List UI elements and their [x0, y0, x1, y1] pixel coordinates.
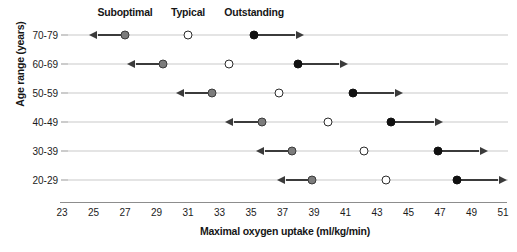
- arrowhead-icon: [89, 31, 97, 39]
- x-tick-label-31: 31: [182, 207, 193, 218]
- data-point-sub: [121, 31, 130, 40]
- x-axis-line: [60, 202, 507, 203]
- arrow-right-out: [254, 34, 295, 36]
- arrowhead-icon: [225, 118, 233, 126]
- data-point-typ: [324, 118, 333, 127]
- x-tick-label-27: 27: [119, 207, 130, 218]
- x-tick-label-39: 39: [308, 207, 319, 218]
- y-tick-mark: [61, 93, 68, 94]
- data-point-typ: [224, 60, 233, 69]
- arrowhead-icon: [127, 60, 135, 68]
- data-point-typ: [382, 176, 391, 185]
- y-tick-label-20-29: 20-29: [12, 175, 58, 186]
- x-tick-label-23: 23: [56, 207, 67, 218]
- data-point-out: [387, 118, 396, 127]
- data-point-sub: [158, 60, 167, 69]
- y-tick-mark: [61, 35, 68, 36]
- data-point-out: [349, 89, 358, 98]
- data-point-typ: [275, 89, 284, 98]
- legend-label-typical: Typical: [171, 6, 205, 18]
- data-point-typ: [360, 147, 369, 156]
- data-point-sub: [287, 147, 296, 156]
- y-tick-label-70-79: 70-79: [12, 30, 58, 41]
- x-tick-label-43: 43: [371, 207, 382, 218]
- y-tick-label-40-49: 40-49: [12, 117, 58, 128]
- data-point-sub: [308, 176, 317, 185]
- arrowhead-icon: [395, 89, 403, 97]
- arrow-right-out: [438, 150, 479, 152]
- legend-label-outstanding: Outstanding: [224, 6, 284, 18]
- y-tick-mark: [61, 180, 68, 181]
- x-tick-label-47: 47: [434, 207, 445, 218]
- chart-container: Age range (years) SuboptimalTypicalOutst…: [0, 0, 517, 252]
- x-tick-label-29: 29: [151, 207, 162, 218]
- x-tick-label-45: 45: [403, 207, 414, 218]
- arrow-right-out: [298, 63, 339, 65]
- data-point-typ: [184, 31, 193, 40]
- legend-label-suboptimal: Suboptimal: [97, 6, 152, 18]
- row-baseline: [68, 93, 508, 94]
- data-point-out: [294, 60, 303, 69]
- x-tick-label-51: 51: [497, 207, 508, 218]
- arrowhead-icon: [176, 89, 184, 97]
- y-tick-mark: [61, 122, 68, 123]
- x-tick-label-49: 49: [466, 207, 477, 218]
- arrow-right-out: [457, 179, 498, 181]
- data-point-sub: [258, 118, 267, 127]
- arrowhead-icon: [256, 147, 264, 155]
- arrow-right-out: [353, 92, 394, 94]
- arrow-right-out: [391, 121, 434, 123]
- data-point-out: [250, 31, 259, 40]
- y-tick-label-50-59: 50-59: [12, 88, 58, 99]
- data-point-out: [434, 147, 443, 156]
- x-tick-label-25: 25: [88, 207, 99, 218]
- arrowhead-icon: [277, 176, 285, 184]
- y-tick-mark: [61, 64, 68, 65]
- arrowhead-icon: [296, 31, 304, 39]
- data-point-out: [453, 176, 462, 185]
- x-tick-label-37: 37: [277, 207, 288, 218]
- arrowhead-icon: [499, 176, 507, 184]
- arrowhead-icon: [340, 60, 348, 68]
- y-tick-mark: [61, 151, 68, 152]
- data-point-sub: [207, 89, 216, 98]
- x-tick-label-35: 35: [245, 207, 256, 218]
- arrowhead-icon: [435, 118, 443, 126]
- x-tick-label-41: 41: [340, 207, 351, 218]
- arrowhead-icon: [480, 147, 488, 155]
- y-tick-label-60-69: 60-69: [12, 59, 58, 70]
- y-tick-label-30-39: 30-39: [12, 146, 58, 157]
- x-tick-label-33: 33: [214, 207, 225, 218]
- x-axis-title: Maximal oxygen uptake (ml/kg/min): [200, 225, 370, 237]
